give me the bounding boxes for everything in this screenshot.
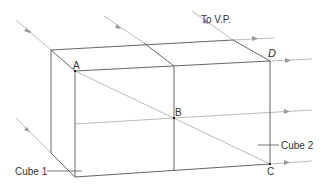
mid-horizontal xyxy=(75,118,174,124)
label-A: A xyxy=(73,60,80,71)
ray-D xyxy=(270,59,312,61)
diagonal-AC xyxy=(75,71,270,164)
vanishing-rays xyxy=(16,11,312,164)
arrowheads xyxy=(24,19,291,165)
label-C: C xyxy=(267,166,274,177)
label-D: D xyxy=(268,47,276,59)
label-to-vp: To V.P. xyxy=(201,14,231,25)
label-B: B xyxy=(175,107,182,118)
ray-bottom-left xyxy=(16,118,51,153)
perspective-cubes-diagram: To V.P. A B C D Cube 1 Cube 2 xyxy=(0,0,332,187)
ray-top-middle xyxy=(104,16,144,43)
leader-lines xyxy=(47,145,279,171)
label-cube-1: Cube 1 xyxy=(15,166,48,177)
label-cube-2: Cube 2 xyxy=(281,140,314,151)
ray-C xyxy=(270,161,312,164)
ray-back-top-left xyxy=(16,20,51,50)
ray-B xyxy=(174,110,312,118)
cube-edges xyxy=(51,40,270,177)
